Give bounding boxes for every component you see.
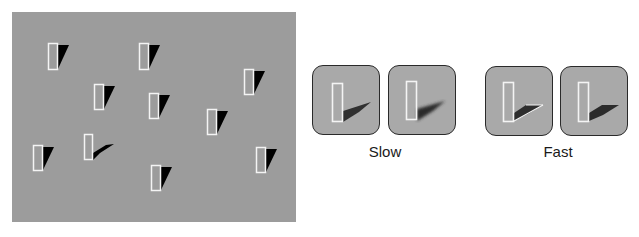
figure: Slow Fast [0,0,639,237]
caption-fast: Fast [518,143,598,160]
distractor-item [34,146,55,171]
distractor-item [208,110,229,135]
fast-example-panel-1 [485,66,553,136]
target-item [85,135,115,161]
slow-example-panel-1 [312,65,380,135]
distractor-item [257,148,278,173]
caption-slow: Slow [345,143,425,160]
distractor-item [152,166,173,191]
distractor-item [95,85,116,110]
distractor-item [245,70,266,95]
distractor-item [150,94,171,119]
fast-example-panel-2 [560,66,628,136]
distractor-item [140,44,161,70]
distractor-item [49,44,70,70]
slow-example-panel-2 [388,65,456,135]
